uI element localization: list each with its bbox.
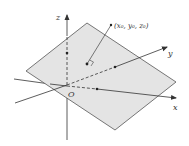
diagram-svg: z y x O (x₀, y₀, z₀) [0, 0, 189, 146]
z-intercept-point [66, 52, 69, 55]
y-axis-label: y [167, 49, 173, 58]
z-axis-label: z [55, 13, 61, 22]
x-intercept-point [96, 88, 99, 91]
x-axis-label: x [173, 103, 178, 112]
label-anchor-point [110, 24, 112, 26]
y-axis-negative [15, 91, 50, 103]
plane-point [86, 63, 89, 66]
plane [26, 23, 176, 130]
y-intercept-point [114, 66, 117, 69]
origin-label: O [68, 90, 75, 99]
point-coordinates-label: (x₀, y₀, z₀) [114, 22, 149, 30]
diagram-canvas: z y x O (x₀, y₀, z₀) [0, 0, 189, 146]
